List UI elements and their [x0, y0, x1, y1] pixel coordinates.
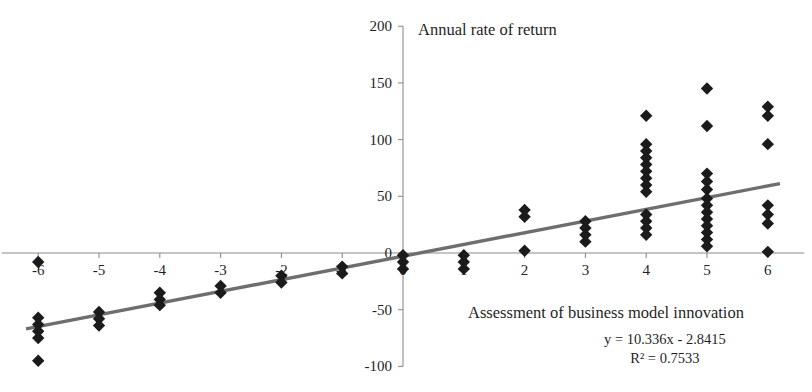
- x-axis-title: Assessment of business model innovation: [468, 302, 744, 323]
- y-tick-label: -100: [365, 358, 393, 374]
- data-point: [518, 211, 530, 223]
- y-tick-label: -50: [372, 302, 392, 318]
- x-tick-label: -3: [214, 262, 227, 278]
- x-tick-label: -4: [154, 262, 167, 278]
- x-tick-label: 4: [642, 262, 650, 278]
- x-tick-label: 2: [521, 262, 529, 278]
- data-point: [701, 82, 713, 94]
- data-point: [762, 246, 774, 258]
- y-axis-title: Annual rate of return: [418, 19, 557, 40]
- data-point: [640, 229, 652, 241]
- y-tick-label: 100: [370, 132, 393, 148]
- data-point: [32, 332, 44, 344]
- data-point: [762, 110, 774, 122]
- data-point: [518, 245, 530, 257]
- regression-annotation: y = 10.336x - 2.8415 R² = 0.7533: [604, 330, 726, 369]
- data-point: [701, 240, 713, 252]
- x-tick-label: 3: [582, 262, 590, 278]
- data-point: [640, 110, 652, 122]
- x-tick-label: 6: [764, 262, 772, 278]
- data-point: [640, 186, 652, 198]
- data-point: [214, 286, 226, 298]
- r-squared-value: R² = 0.7533: [604, 349, 726, 368]
- x-tick-label: 5: [703, 262, 711, 278]
- y-tick-label: 50: [377, 188, 392, 204]
- regression-equation: y = 10.336x - 2.8415: [604, 330, 726, 349]
- data-point: [32, 355, 44, 367]
- data-point: [93, 319, 105, 331]
- x-tick-label: -5: [93, 262, 106, 278]
- data-point: [701, 120, 713, 132]
- data-point: [762, 138, 774, 150]
- y-axis-ticks: -100-50050100150200: [365, 18, 404, 374]
- scatter-chart: -6-5-4-3-2-10123456 -100-50050100150200 …: [0, 0, 812, 392]
- y-tick-label: 150: [370, 75, 393, 91]
- y-tick-label: 200: [370, 18, 393, 34]
- data-point: [579, 235, 591, 247]
- data-point: [762, 217, 774, 229]
